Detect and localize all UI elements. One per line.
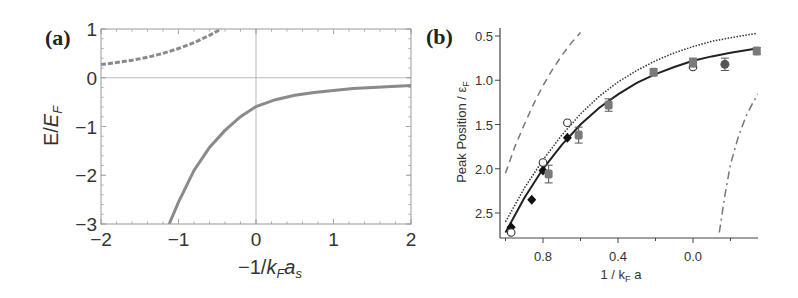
theory-curve-solid bbox=[506, 48, 757, 232]
open-circle-marker bbox=[507, 229, 515, 237]
y-axis-label: Peak Position / εF bbox=[454, 81, 471, 183]
x-tick-label: 0.8 bbox=[534, 249, 552, 264]
x-axis-label: −1/kFas bbox=[238, 256, 302, 281]
figure: (a) −2−101210−1−2−3 −1/kFas E/EF (b) 0.8… bbox=[0, 0, 798, 298]
square-marker bbox=[545, 170, 553, 179]
square-marker bbox=[753, 47, 761, 56]
panel-b-label: (b) bbox=[426, 24, 453, 49]
bound-state-curve bbox=[169, 86, 411, 224]
y-tick-label: 1 bbox=[86, 19, 97, 40]
x-tick-label: −1 bbox=[168, 229, 190, 250]
panel-a-label: (a) bbox=[45, 25, 71, 50]
y-tick-label: 0 bbox=[86, 68, 97, 89]
y-axis-label: E/EF bbox=[40, 105, 65, 146]
x-tick-label: 0 bbox=[251, 229, 262, 250]
square-marker bbox=[689, 58, 697, 67]
x-tick-label: 0.4 bbox=[609, 249, 627, 264]
y-tick-label: 1.5 bbox=[475, 118, 493, 133]
axis-ticks: −2−101210−1−2−3 bbox=[75, 19, 416, 250]
square-marker bbox=[575, 131, 583, 140]
x-tick-label: 2 bbox=[406, 229, 417, 250]
x-tick-label: 0.0 bbox=[684, 249, 702, 264]
curves bbox=[506, 33, 759, 233]
y-tick-label: 1.0 bbox=[475, 73, 493, 88]
y-tick-label: 0.5 bbox=[475, 29, 493, 44]
y-tick-label: 2.5 bbox=[475, 206, 493, 221]
theory-curve-dashed bbox=[506, 33, 581, 174]
diamond-marker bbox=[527, 195, 536, 205]
filled-circle-marker bbox=[720, 60, 729, 69]
y-tick-label: −2 bbox=[75, 165, 97, 186]
panel-a-chart: (a) −2−101210−1−2−3 −1/kFas E/EF bbox=[40, 19, 416, 281]
x-tick-label: 1 bbox=[328, 229, 339, 250]
square-marker bbox=[605, 101, 613, 110]
theory-curve-dotted bbox=[506, 33, 757, 222]
panel-b-chart: (b) 0.80.40.00.51.01.52.02.5 1 / kF a Pe… bbox=[426, 24, 761, 284]
theory-curve-dashdot bbox=[719, 94, 758, 233]
y-tick-label: 2.0 bbox=[475, 162, 493, 177]
y-tick-label: −3 bbox=[75, 214, 97, 235]
upper-branch-curve bbox=[101, 29, 221, 65]
y-tick-label: −1 bbox=[75, 117, 97, 138]
square-marker bbox=[650, 68, 658, 77]
open-circle-marker bbox=[564, 119, 572, 127]
x-axis-label: 1 / kF a bbox=[601, 267, 643, 284]
